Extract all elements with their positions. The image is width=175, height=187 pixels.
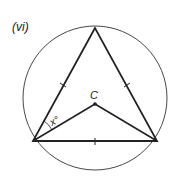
center-point — [93, 102, 97, 106]
figure-label: (vi) — [12, 20, 29, 34]
center-label: C — [90, 89, 98, 101]
geometry-diagram: (vi) C x° — [0, 0, 175, 187]
